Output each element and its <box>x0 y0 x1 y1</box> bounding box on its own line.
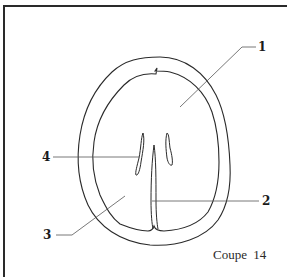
figure-frame: 1 2 3 4 Coupe 14 <box>0 0 287 277</box>
label-2: 2 <box>262 195 270 207</box>
label-1: 1 <box>258 41 266 53</box>
label-4: 4 <box>42 151 50 163</box>
left-ventricle <box>136 133 144 175</box>
leader-line-3 <box>56 196 125 235</box>
figure-caption: Coupe 14 <box>213 247 266 263</box>
label-3: 3 <box>43 229 51 241</box>
interhemispheric-fissure <box>151 145 158 229</box>
right-ventricle <box>166 133 173 165</box>
